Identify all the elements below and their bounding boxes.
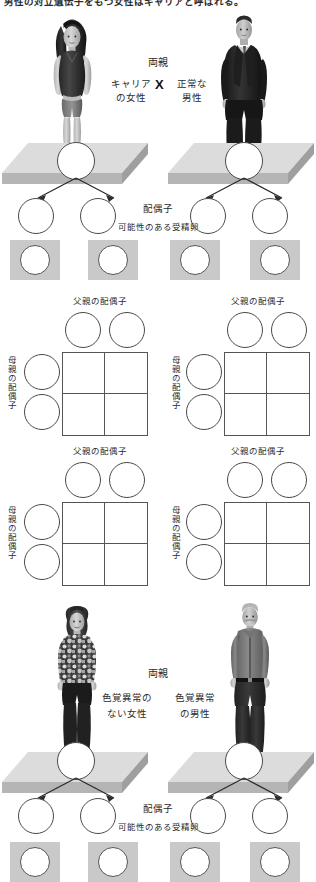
- gamete-circle-bottom-4: [252, 798, 288, 834]
- father-label-bottom-line1: 色覚異常: [164, 692, 226, 704]
- punnett-2-grid: [224, 352, 310, 436]
- punnett-1-father-gamete-2: [109, 312, 145, 348]
- gamete-circle-bottom-1: [18, 798, 54, 834]
- father-genotype-circle-bottom: [225, 742, 263, 780]
- punnett-2-father-gamete-1: [227, 312, 263, 348]
- punnett-2-cell-1: [225, 353, 267, 394]
- punnett-1: 父親の配偶子 母親の配偶子: [0, 296, 158, 436]
- punnett-1-grid: [62, 352, 148, 436]
- punnett-4-side-label: 母親の配偶子: [170, 506, 180, 560]
- punnett-1-mother-gamete-1: [24, 354, 60, 390]
- gamete-label-bottom: 配偶子: [122, 803, 194, 815]
- zygote-box-bottom-3: [170, 842, 220, 882]
- punnett-3-grid: [62, 502, 148, 586]
- punnett-3-cell-1: [63, 503, 105, 544]
- zygote-circle-top-1: [20, 245, 50, 275]
- punnett-2-top-label: 父親の配偶子: [208, 296, 308, 307]
- punnett-2-cell-2: [267, 353, 309, 394]
- punnett-4-mother-gamete-2: [186, 544, 222, 580]
- punnett-3-father-gamete-1: [65, 462, 101, 498]
- zygote-circle-bottom-2: [98, 847, 128, 877]
- punnett-3-side-label: 母親の配偶子: [6, 506, 16, 560]
- father-genotype-circle-top: [225, 142, 263, 180]
- mother-genotype-circle-bottom: [57, 742, 95, 780]
- mother-label-bottom-line1: 色覚異常の: [94, 692, 160, 704]
- zygote-box-bottom-4: [250, 842, 300, 882]
- punnett-3-cell-4: [105, 544, 147, 585]
- punnett-1-side-label: 母親の配偶子: [6, 356, 16, 410]
- gamete-circle-top-1: [18, 198, 54, 234]
- punnett-3-mother-gamete-2: [24, 544, 60, 580]
- punnett-4-cell-4: [267, 544, 309, 585]
- figure-canvas: 男性の対立遺伝子をもつ女性はキャリアと呼ばれる。: [0, 0, 316, 882]
- punnett-4-father-gamete-2: [271, 462, 307, 498]
- punnett-4: 父親の配偶子 母親の配偶子: [158, 446, 316, 586]
- intro-caption: 男性の対立遺伝子をもつ女性はキャリアと呼ばれる。: [4, 0, 312, 8]
- gamete-circle-top-4: [252, 198, 288, 234]
- punnett-2-mother-gamete-2: [186, 394, 222, 430]
- zygote-box-bottom-2: [88, 842, 138, 882]
- punnett-1-cell-1: [63, 353, 105, 394]
- zygote-circle-top-2: [98, 245, 128, 275]
- punnett-4-mother-gamete-1: [186, 504, 222, 540]
- punnett-1-top-label: 父親の配偶子: [50, 296, 150, 307]
- punnett-4-father-gamete-1: [227, 462, 263, 498]
- zygote-circle-top-3: [180, 245, 210, 275]
- father-label-top-line1: 正常な: [168, 78, 216, 90]
- father-label-bottom-line2: の男性: [164, 708, 226, 720]
- zygote-circle-bottom-1: [20, 847, 50, 877]
- zygote-circle-top-4: [260, 245, 290, 275]
- punnett-4-cell-2: [267, 503, 309, 544]
- mother-genotype-circle-top: [57, 142, 95, 180]
- zygote-circle-bottom-3: [180, 847, 210, 877]
- punnett-4-cell-1: [225, 503, 267, 544]
- punnett-2-side-label: 母親の配偶子: [170, 356, 180, 410]
- zygote-box-top-1: [10, 240, 60, 280]
- punnett-1-cell-2: [105, 353, 147, 394]
- punnett-1-cell-4: [105, 394, 147, 435]
- zygote-box-top-3: [170, 240, 220, 280]
- punnett-3-cell-2: [105, 503, 147, 544]
- punnett-2-mother-gamete-1: [186, 354, 222, 390]
- punnett-1-father-gamete-1: [65, 312, 101, 348]
- parents-label-bottom: 両親: [126, 668, 190, 680]
- mother-label-bottom-line2: ない女性: [94, 708, 160, 720]
- cross-symbol-top: X: [155, 77, 164, 92]
- zygote-circle-bottom-4: [260, 847, 290, 877]
- punnett-4-grid: [224, 502, 310, 586]
- mother-label-top-line1: キャリア: [104, 78, 158, 90]
- punnett-2-father-gamete-2: [271, 312, 307, 348]
- zygote-label-bottom: 可能性のある受精卵: [102, 822, 214, 833]
- punnett-3-cell-3: [63, 544, 105, 585]
- parents-label-top: 両親: [126, 57, 190, 69]
- punnett-4-top-label: 父親の配偶子: [208, 446, 308, 457]
- punnett-3-top-label: 父親の配偶子: [50, 446, 150, 457]
- mother-label-top-line2: の女性: [104, 92, 158, 104]
- punnett-3-father-gamete-2: [109, 462, 145, 498]
- punnett-1-mother-gamete-2: [24, 394, 60, 430]
- punnett-1-cell-3: [63, 394, 105, 435]
- punnett-3: 父親の配偶子 母親の配偶子: [0, 446, 158, 586]
- zygote-box-bottom-1: [10, 842, 60, 882]
- punnett-2: 父親の配偶子 母親の配偶子: [158, 296, 316, 436]
- zygote-label-top: 可能性のある受精卵: [102, 222, 214, 233]
- gamete-label-top: 配偶子: [122, 203, 194, 215]
- punnett-4-cell-3: [225, 544, 267, 585]
- father-label-top-line2: 男性: [168, 92, 216, 104]
- zygote-box-top-2: [88, 240, 138, 280]
- punnett-2-cell-3: [225, 394, 267, 435]
- punnett-2-cell-4: [267, 394, 309, 435]
- punnett-3-mother-gamete-1: [24, 504, 60, 540]
- zygote-box-top-4: [250, 240, 300, 280]
